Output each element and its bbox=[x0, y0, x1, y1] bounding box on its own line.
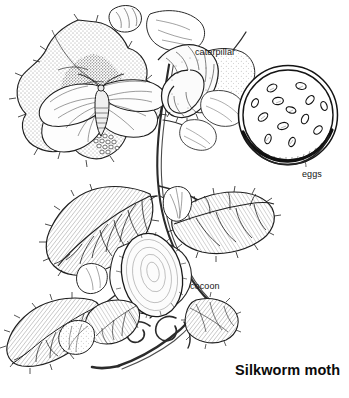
egg-dish-inset bbox=[239, 66, 338, 165]
label-eggs: eggs bbox=[302, 169, 322, 179]
silkworm-moth-illustration bbox=[0, 0, 349, 398]
plate-title: Silkworm moth bbox=[235, 362, 340, 379]
illustration-plate: caterpillar eggs cocoon Silkworm moth bbox=[0, 0, 349, 398]
label-caterpillar: caterpillar bbox=[195, 47, 235, 57]
label-cocoon: cocoon bbox=[190, 281, 220, 291]
